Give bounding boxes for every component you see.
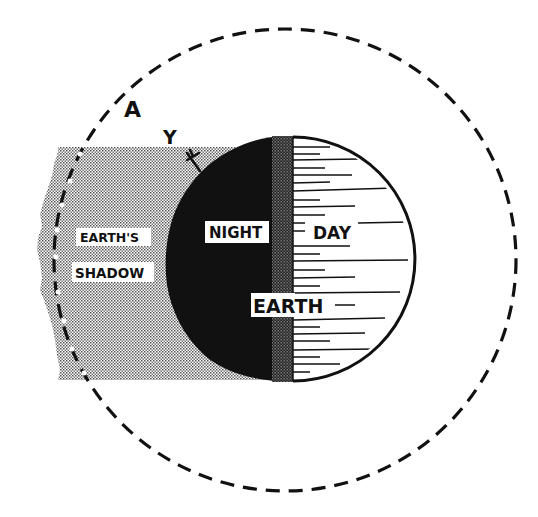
earth-text: EARTH: [253, 295, 323, 317]
label-a: A: [124, 97, 141, 122]
earth-label: EARTH: [251, 293, 323, 317]
earths-shadow-line1: EARTH'S: [80, 230, 139, 245]
label-y: Y: [162, 126, 177, 148]
day-label: DAY: [313, 223, 352, 243]
night-label: NIGHT: [205, 221, 269, 243]
earths-shadow-line2: SHADOW: [75, 265, 144, 281]
night-text: NIGHT: [209, 224, 263, 242]
earth-day-side: [293, 130, 423, 390]
earth-shadow-diagram: A Y EARTH'S SHADOW NIGHT DAY EARTH: [0, 0, 538, 517]
